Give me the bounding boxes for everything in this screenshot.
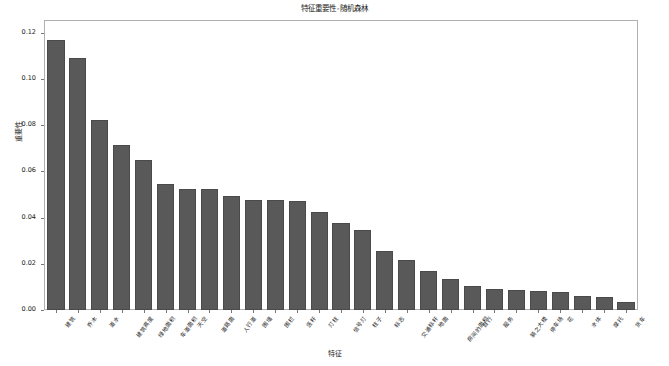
bar: [289, 201, 306, 310]
x-axis-tick-label: 骑之大楼: [529, 315, 550, 339]
x-axis-tick-mark: [297, 310, 298, 313]
x-axis-tick-label: 建筑: [64, 315, 78, 329]
x-axis-tick-label: 建筑高度: [134, 315, 155, 339]
x-axis-tick-mark: [516, 310, 517, 313]
bar: [376, 251, 393, 310]
bar: [596, 297, 613, 310]
x-axis-tick-mark: [275, 310, 276, 313]
y-axis-tick-label: 0.06: [22, 166, 36, 174]
x-axis-tick-mark: [363, 310, 364, 313]
y-axis-tick-label: 0.00: [22, 305, 36, 313]
x-axis-tick-mark: [473, 310, 474, 313]
plot-area: [45, 21, 637, 310]
x-axis-tick-label: 摩托: [612, 315, 626, 329]
x-axis-tick-label: 绿地面积: [156, 315, 177, 339]
x-axis-tick-label: 水体: [590, 315, 604, 329]
x-axis-tick-label: 天空: [195, 315, 209, 329]
x-axis-tick-label: 服务: [502, 315, 516, 329]
bar: [398, 260, 415, 310]
y-axis-tick-mark: [41, 33, 44, 34]
x-axis-tick-mark: [166, 310, 167, 313]
x-axis-tick-mark: [582, 310, 583, 313]
x-axis-tick-mark: [188, 310, 189, 313]
x-axis-tick-label: 道水: [107, 315, 121, 329]
bar: [332, 223, 349, 310]
y-axis-tick-label: 0.02: [22, 259, 36, 267]
bar: [157, 184, 174, 310]
y-axis-tick-label: 0.04: [22, 213, 36, 221]
bar: [354, 230, 371, 310]
x-axis-tick-mark: [407, 310, 408, 313]
x-axis-tick-mark: [100, 310, 101, 313]
y-axis-tick-mark: [41, 125, 44, 126]
bar: [311, 212, 328, 310]
bar: [617, 302, 634, 310]
x-axis-tick-label: 地面: [436, 315, 450, 329]
x-axis-tick-mark: [78, 310, 79, 313]
bar: [530, 291, 547, 310]
x-axis-tick-mark: [451, 310, 452, 313]
x-axis-tick-mark: [494, 310, 495, 313]
bar: [464, 286, 481, 310]
x-axis-tick-mark: [626, 310, 627, 313]
x-axis-tick-label: 乔木: [85, 315, 99, 329]
x-axis-tick-label: 车道面积: [178, 315, 199, 339]
bar: [135, 160, 152, 310]
x-axis-tick-mark: [429, 310, 430, 313]
x-axis-tick-label: 花: [566, 315, 576, 325]
x-axis-tick-label: 道路面: [219, 315, 236, 334]
y-axis-tick-mark: [41, 310, 44, 311]
x-axis-tick-mark: [341, 310, 342, 313]
y-axis-title: 重要性: [13, 91, 23, 171]
y-axis-tick-label: 0.10: [22, 74, 36, 82]
x-axis-tick-label: 竖杆: [305, 315, 319, 329]
x-axis-tick-label: 人行道: [241, 315, 258, 334]
x-axis-tick-mark: [538, 310, 539, 313]
x-axis-tick-label: 货车: [634, 315, 648, 329]
x-axis-tick-label: 停车场: [548, 315, 565, 334]
x-axis-tick-label: 灯柱: [327, 315, 341, 329]
y-axis-tick-mark: [41, 79, 44, 80]
bar: [69, 58, 86, 310]
x-axis-tick-label: 围栏: [283, 315, 297, 329]
x-axis-tick-mark: [56, 310, 57, 313]
x-axis-tick-mark: [319, 310, 320, 313]
bar: [223, 196, 240, 310]
x-axis-tick-mark: [209, 310, 210, 313]
bar: [91, 120, 108, 310]
x-axis-tick-mark: [560, 310, 561, 313]
bar: [245, 200, 262, 310]
y-axis-tick-mark: [41, 218, 44, 219]
x-axis-tick-mark: [144, 310, 145, 313]
x-axis-tick-label: 标志: [392, 315, 406, 329]
x-axis-tick-label: 柱子: [371, 315, 385, 329]
bar: [442, 279, 459, 310]
x-axis-tick-mark: [604, 310, 605, 313]
bar: [267, 200, 284, 310]
bar: [47, 40, 64, 311]
x-axis-tick-label: 交通标杆: [419, 315, 440, 339]
y-axis-tick-mark: [41, 264, 44, 265]
chart-title: 特征重要性-随机森林: [0, 2, 669, 13]
x-axis-tick-mark: [231, 310, 232, 313]
bar: [552, 292, 569, 310]
bar: [179, 189, 196, 310]
x-axis-tick-label: 围墙: [261, 315, 275, 329]
bar: [574, 296, 591, 310]
x-axis-tick-mark: [253, 310, 254, 313]
y-axis-tick-label: 0.12: [22, 28, 36, 36]
x-axis-tick-mark: [385, 310, 386, 313]
bar: [201, 189, 218, 310]
y-axis-tick-mark: [41, 171, 44, 172]
bar: [113, 145, 130, 310]
x-axis-tick-label: 信号灯: [351, 315, 368, 334]
chart-figure: 特征重要性-随机森林 重要性 0.000.020.040.060.080.100…: [0, 0, 669, 366]
bar: [508, 290, 525, 310]
bar: [420, 271, 437, 310]
y-axis-tick-label: 0.08: [22, 120, 36, 128]
x-axis-title: 特征: [0, 348, 669, 358]
x-axis-tick-mark: [122, 310, 123, 313]
bar: [486, 289, 503, 311]
